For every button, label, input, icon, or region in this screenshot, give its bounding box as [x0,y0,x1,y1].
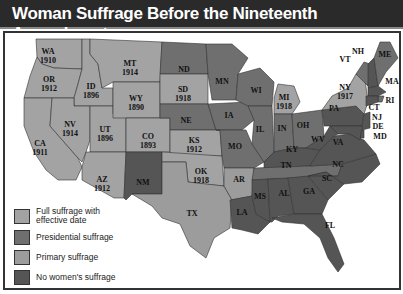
state-label: 1914 [62,129,78,138]
state-label: 1914 [122,68,138,77]
state-label: OH [297,121,310,130]
state-label: CT [368,103,380,112]
state-label: DE [372,122,383,131]
state-label: NV [64,120,76,129]
legend: Full suffrage with effective date Presid… [14,207,115,290]
legend-swatch-full [14,209,30,224]
state-label: NH [352,47,365,56]
state-label: ND [178,65,190,74]
state-RI [378,96,384,102]
state-label: 1918 [276,102,292,111]
state-label: MN [215,77,229,86]
state-label: KS [189,136,200,145]
state-label: KY [286,145,298,154]
legend-swatch-primary [14,250,30,265]
legend-item-presidential: Presidential suffrage [14,230,115,245]
state-label: WV [311,135,325,144]
map-frame: WA1910 OR1912 CA1911 ID1896 NV1914 UT189… [3,31,401,290]
state-MA [368,86,386,96]
state-label: PA [329,104,339,113]
state-label: IA [225,111,234,120]
state-label: CO [142,132,154,141]
state-label: NY [339,83,351,92]
legend-item-full: Full suffrage with effective date [14,207,115,225]
state-label: WY [129,94,143,103]
state-label: UT [99,125,111,134]
state-label: WI [250,86,261,95]
state-label: MI [279,93,290,102]
state-label: 1896 [83,91,99,100]
legend-swatch-presidential [14,230,30,245]
legend-label-full: Full suffrage with effective date [36,207,106,225]
legend-label-presidential: Presidential suffrage [36,233,113,242]
state-label: WA [42,47,55,56]
state-label: 1918 [193,176,209,185]
state-label: NE [180,116,191,125]
state-label: 1893 [140,141,156,150]
state-label: FL [325,221,335,230]
state-label: ID [87,82,96,91]
state-label: NJ [372,113,382,122]
state-label: NC [332,160,344,169]
state-label: 1896 [97,134,113,143]
state-label: LA [236,208,247,217]
state-label: IN [278,124,287,133]
legend-item-none: No women's suffrage [14,270,115,285]
state-label: OR [43,75,55,84]
state-label: NM [136,178,150,187]
state-label: MS [254,192,267,201]
state-label: MA [385,77,399,86]
state-label: TN [280,161,291,170]
state-label: IL [256,125,264,134]
state-label: AL [278,189,289,198]
legend-label-none: No women's suffrage [36,273,115,282]
state-label: GA [303,187,315,196]
state-label: AZ [96,175,107,184]
title-bar: Woman Suffrage Before the Nineteenth Ame… [0,0,403,29]
state-label: 1918 [175,94,191,103]
state-label: OK [195,167,208,176]
legend-swatch-none [14,270,30,285]
state-NM [124,152,162,200]
state-label: 1911 [32,148,48,157]
state-label: SD [178,85,188,94]
state-label: TX [186,209,197,218]
state-label: ME [379,50,392,59]
state-label: 1917 [337,92,353,101]
state-label: AR [233,175,245,184]
state-label: MO [228,142,242,151]
state-label: SC [322,174,332,183]
state-label: MD [373,132,387,141]
state-label: CA [34,139,46,148]
state-label: MT [124,59,138,68]
state-label: 1910 [40,56,56,65]
state-label: 1890 [128,103,144,112]
state-label: VT [339,55,351,64]
legend-item-primary: Primary suffrage [14,250,115,265]
legend-label-primary: Primary suffrage [36,253,98,262]
state-label: RI [386,96,395,105]
state-label: 1912 [94,184,110,193]
state-label: 1912 [186,145,202,154]
state-label: 1912 [41,84,57,93]
state-label: VA [333,138,344,147]
